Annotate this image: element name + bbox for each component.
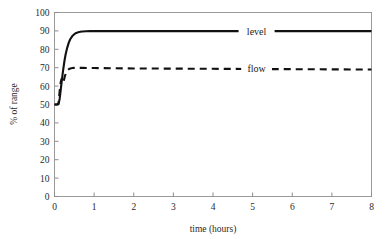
x-tick-label: 0 bbox=[52, 202, 57, 212]
y-tick-label: 50 bbox=[40, 100, 50, 110]
y-tick-label: 80 bbox=[40, 45, 50, 55]
x-tick-label: 3 bbox=[171, 202, 176, 212]
y-tick-label: 100 bbox=[35, 8, 50, 18]
plot-frame bbox=[55, 13, 372, 197]
x-tick-label: 7 bbox=[330, 202, 335, 212]
series-curve-flow bbox=[55, 68, 372, 105]
y-tick-label: 90 bbox=[40, 26, 50, 36]
y-tick-label: 40 bbox=[40, 118, 50, 128]
series-label-level: level bbox=[247, 26, 267, 37]
y-axis-tick-labels: 0102030405060708090100 bbox=[35, 8, 50, 202]
x-tick-label: 1 bbox=[92, 202, 97, 212]
y-tick-label: 30 bbox=[40, 137, 50, 147]
x-tick-label: 6 bbox=[290, 202, 295, 212]
x-tick-label: 5 bbox=[250, 202, 255, 212]
x-tick-label: 4 bbox=[211, 202, 216, 212]
y-tick-label: 0 bbox=[45, 192, 50, 202]
chart-svg: 0102030405060708090100 012345678 levelfl… bbox=[0, 0, 391, 239]
data-curves bbox=[55, 31, 372, 104]
x-tick-label: 8 bbox=[369, 202, 374, 212]
x-axis-tick-labels: 012345678 bbox=[52, 202, 374, 212]
chart-figure: 0102030405060708090100 012345678 levelfl… bbox=[0, 0, 391, 239]
x-tick-label: 2 bbox=[131, 202, 136, 212]
x-axis-title: time (hours) bbox=[190, 224, 237, 235]
axis-ticks bbox=[55, 13, 372, 197]
y-axis-title: % of range bbox=[9, 83, 19, 125]
series-label-flow: flow bbox=[247, 63, 266, 74]
y-tick-label: 10 bbox=[40, 174, 50, 184]
series-inline-labels: levelflow bbox=[239, 25, 275, 76]
y-tick-label: 20 bbox=[40, 155, 50, 165]
y-tick-label: 60 bbox=[40, 82, 50, 92]
y-tick-label: 70 bbox=[40, 63, 50, 73]
